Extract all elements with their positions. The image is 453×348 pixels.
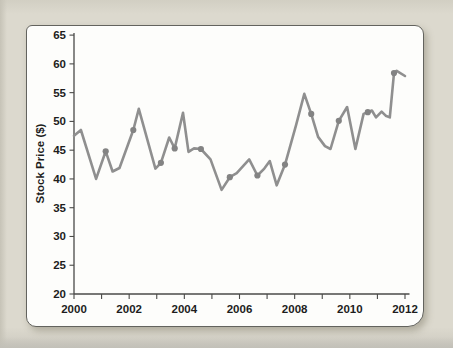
y-tick-label: 30 <box>53 230 66 242</box>
data-point-marker <box>227 174 233 180</box>
y-tick-label: 20 <box>53 288 66 300</box>
y-tick-label: 50 <box>53 115 66 127</box>
y-axis-title: Stock Price ($) <box>34 123 46 203</box>
y-tick-label: 65 <box>53 29 66 41</box>
data-point-marker <box>198 146 204 152</box>
y-tick-label: 45 <box>53 144 66 156</box>
y-tick-label: 25 <box>53 259 66 271</box>
y-tick-label: 60 <box>53 58 66 70</box>
stock-price-line <box>74 71 405 190</box>
data-point-marker <box>336 118 342 124</box>
x-tick-label: 2010 <box>337 303 363 315</box>
x-tick-label: 2000 <box>61 303 87 315</box>
stock-price-chart: 2025303540455055606520002002200420062008… <box>0 0 453 348</box>
data-point-marker <box>391 70 397 76</box>
x-tick-label: 2004 <box>172 303 198 315</box>
data-point-marker <box>158 160 164 166</box>
x-tick-label: 2008 <box>282 303 308 315</box>
scanned-page-background: 2025303540455055606520002002200420062008… <box>0 0 453 348</box>
y-tick-label: 55 <box>53 87 66 99</box>
data-point-marker <box>308 111 314 117</box>
y-tick-label: 40 <box>53 173 66 185</box>
data-point-marker <box>172 145 178 151</box>
data-point-marker <box>365 109 371 115</box>
y-tick-label: 35 <box>53 202 66 214</box>
data-point-marker <box>130 127 136 133</box>
data-point-marker <box>282 162 288 168</box>
data-point-marker <box>103 148 109 154</box>
x-tick-label: 2012 <box>392 303 418 315</box>
data-point-marker <box>254 172 260 178</box>
x-tick-label: 2006 <box>227 303 253 315</box>
x-tick-label: 2002 <box>116 303 142 315</box>
